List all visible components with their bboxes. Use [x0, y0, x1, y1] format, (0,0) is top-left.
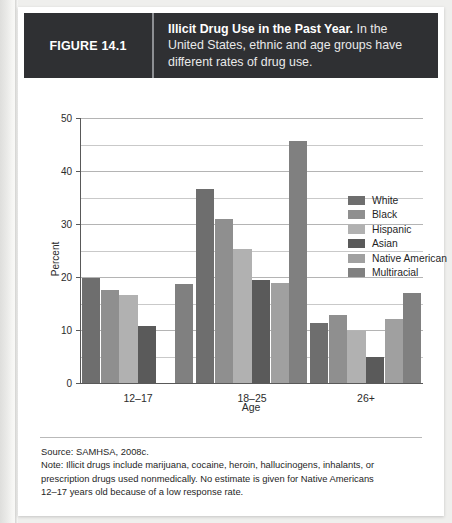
figure-header: FIGURE 14.1 Illicit Drug Use in the Past… [24, 13, 438, 78]
bar-hispanic-12-17 [119, 295, 137, 384]
legend-item-multiracial: Multiracial [348, 266, 447, 281]
figure-number: FIGURE 14.1 [24, 13, 154, 78]
gridline-major [81, 118, 423, 119]
legend-swatch-icon [348, 254, 365, 263]
bar-white-12-17 [82, 278, 100, 383]
y-axis-tick-label: 20 [61, 272, 72, 283]
page-edge-shadow [0, 0, 18, 523]
bar-multiracial-12-17 [175, 284, 193, 383]
y-axis-tick-label: 10 [61, 325, 72, 336]
y-axis-tick [76, 224, 81, 225]
legend-swatch-icon [348, 210, 365, 219]
source-note: Source: SAMHSA, 2008c. [41, 445, 425, 458]
bar-asian-26+ [366, 357, 384, 384]
y-axis-tick-label: 50 [61, 113, 72, 124]
bar-native-american-26+ [385, 319, 403, 383]
figure-caption-strong: Illicit Drug Use in the Past Year. [168, 22, 353, 36]
bar-white-26+ [310, 323, 328, 383]
chart-legend: WhiteBlackHispanicAsianNative AmericanMu… [348, 193, 447, 280]
bar-black-12-17 [101, 290, 119, 383]
bar-native-american-18-25 [271, 283, 289, 383]
legend-label: Native American [372, 253, 447, 264]
gridline-minor [81, 145, 423, 146]
bar-white-18-25 [196, 189, 214, 383]
figure-caption: Illicit Drug Use in the Past Year. In th… [154, 13, 438, 78]
bar-multiracial-18-25 [289, 141, 307, 383]
legend-swatch-icon [348, 225, 365, 234]
footnote-divider [40, 437, 422, 438]
legend-item-native-american: Native American [348, 251, 447, 266]
figure-card: FIGURE 14.1 Illicit Drug Use in the Past… [18, 7, 444, 516]
gridline-major [81, 171, 423, 172]
legend-label: Asian [372, 238, 398, 249]
legend-label: Black [372, 209, 397, 220]
legend-swatch-icon [348, 239, 365, 248]
bar-asian-18-25 [252, 280, 270, 383]
bar-hispanic-26+ [347, 331, 365, 383]
bar-multiracial-26+ [403, 293, 421, 383]
y-axis-title: Percent [50, 242, 61, 276]
y-axis-tick-label: 40 [61, 166, 72, 177]
y-axis-tick [76, 383, 81, 384]
legend-item-hispanic: Hispanic [348, 222, 447, 237]
legend-swatch-icon [348, 268, 365, 277]
y-axis-tick [76, 277, 81, 278]
legend-label: Multiracial [372, 267, 418, 278]
x-axis-title: Age [80, 401, 422, 413]
bar-black-26+ [329, 315, 347, 383]
note-line-1: Note: Illicit drugs include marijuana, c… [41, 458, 425, 471]
legend-swatch-icon [348, 196, 365, 205]
figure-notes: Source: SAMHSA, 2008c. Note: Illicit dru… [41, 445, 425, 498]
y-axis-tick [76, 118, 81, 119]
y-axis-tick [76, 330, 81, 331]
legend-label: Hispanic [372, 224, 412, 235]
y-axis-tick-label: 0 [66, 378, 72, 389]
note-line-3: 12–17 years old because of a low respons… [41, 485, 425, 498]
bar-asian-12-17 [138, 326, 156, 383]
y-axis-tick-label: 30 [61, 219, 72, 230]
legend-label: White [372, 195, 398, 206]
y-axis-tick [76, 171, 81, 172]
bar-black-18-25 [215, 219, 233, 383]
legend-item-white: White [348, 193, 447, 208]
note-line-2: prescription drugs used nonmedically. No… [41, 472, 425, 485]
legend-item-black: Black [348, 208, 447, 223]
bar-hispanic-18-25 [233, 249, 251, 383]
chart-canvas: Percent 0102030405012–1718–2526+ Age Whi… [24, 85, 438, 433]
legend-item-asian: Asian [348, 237, 447, 252]
